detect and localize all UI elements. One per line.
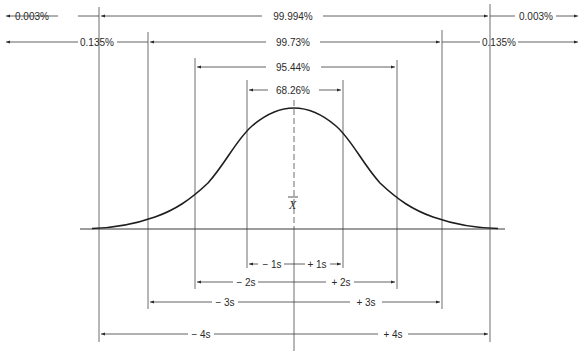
label-middle-3s: 99.73% — [276, 37, 310, 48]
label-plus-1s: + 1s — [307, 259, 326, 270]
diagram-canvas: 0.003% 99.994% 0.003% 0.135% 99.73% 0.13… — [0, 0, 585, 351]
label-right-tail-3s: 0.135% — [482, 37, 516, 48]
label-middle-1s: 68.26% — [276, 85, 310, 96]
label-middle-2s: 95.44% — [276, 62, 310, 73]
label-minus-1s: − 1s — [262, 259, 281, 270]
label-minus-4s: − 4s — [191, 329, 210, 340]
label-left-tail-3s: 0.135% — [80, 37, 114, 48]
label-minus-3s: − 3s — [215, 297, 234, 308]
label-plus-2s: + 2s — [331, 277, 350, 288]
sigma-lines — [99, 4, 490, 351]
label-plus-4s: + 4s — [383, 329, 402, 340]
mean-label: X — [288, 198, 297, 212]
label-left-tail-4s: 0.003% — [15, 11, 49, 22]
label-middle-4s: 99.994% — [273, 11, 313, 22]
label-minus-2s: − 2s — [236, 277, 255, 288]
normal-distribution-diagram: 0.003% 99.994% 0.003% 0.135% 99.73% 0.13… — [0, 0, 585, 351]
label-right-tail-4s: 0.003% — [519, 11, 553, 22]
label-plus-3s: + 3s — [356, 297, 375, 308]
